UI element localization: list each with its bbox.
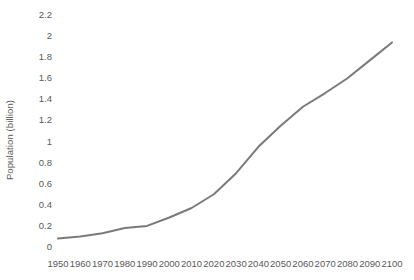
plot-area (0, 0, 414, 280)
line-chart: Population (billion) 2.221.81.61.41.210.… (0, 0, 414, 280)
plot-svg (0, 0, 414, 280)
data-series-population-line (58, 42, 392, 238)
